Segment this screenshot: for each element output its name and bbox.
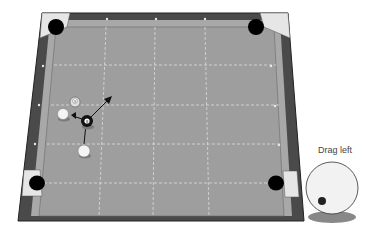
pocket-top-left xyxy=(48,19,64,35)
spin-control-dot[interactable] xyxy=(318,197,326,205)
pool-game: 9 8 Drag left xyxy=(0,0,384,237)
pocket-bottom-right xyxy=(268,176,284,191)
spin-hint-label: Drag left xyxy=(310,145,360,155)
table-felt[interactable] xyxy=(39,27,284,216)
pocket-bottom-left xyxy=(29,176,45,191)
ghost-ball-label: 9 xyxy=(74,100,76,104)
cue-ball[interactable] xyxy=(58,109,69,120)
cue-ball-start[interactable] xyxy=(78,145,90,157)
pocket-top-right xyxy=(248,19,264,35)
spin-control-ball[interactable] xyxy=(306,162,358,214)
